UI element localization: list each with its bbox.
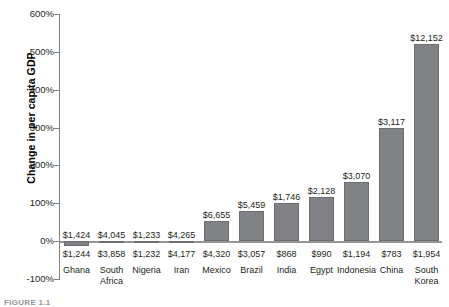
y-axis-title: Change in per capita GDP [25, 33, 37, 203]
y-tick-label: 300% [0, 123, 54, 132]
bar [169, 241, 195, 243]
y-tick-label: 100% [0, 198, 54, 207]
bar [134, 241, 160, 243]
bar-value-label-lower: $1,954 [403, 249, 449, 259]
bar [204, 221, 230, 241]
bar-value-label-upper: $12,152 [402, 33, 449, 43]
bar [64, 241, 90, 246]
y-tick-label: 500% [0, 47, 54, 56]
figure-caption: FIGURE 1.1 [4, 298, 51, 307]
bar-value-label-upper: $4,265 [157, 230, 207, 240]
bar [414, 44, 440, 241]
y-tick-label: 0% [0, 236, 54, 245]
bar [274, 203, 300, 241]
bar-value-label-upper: $3,070 [332, 171, 382, 181]
y-tick-label: 600% [0, 9, 54, 18]
plot-area: $1,424$4,045$1,233$4,265$6,655$5,459$1,7… [59, 14, 444, 281]
bar-value-label-upper: $2,128 [297, 186, 347, 196]
y-tick-label: 200% [0, 160, 54, 169]
bar [239, 211, 265, 241]
y-tick-label: -100% [0, 274, 54, 283]
bar [99, 241, 125, 243]
y-tick-label: 400% [0, 85, 54, 94]
bar [379, 128, 405, 241]
bar-chart: Change in per capita GDP -100%0%100%200%… [0, 0, 449, 307]
bar [344, 182, 370, 241]
bar [309, 197, 335, 241]
bar-value-label-upper: $3,117 [367, 117, 417, 127]
category-label: South Korea [406, 265, 447, 287]
bar-value-label-upper: $6,655 [192, 210, 242, 220]
